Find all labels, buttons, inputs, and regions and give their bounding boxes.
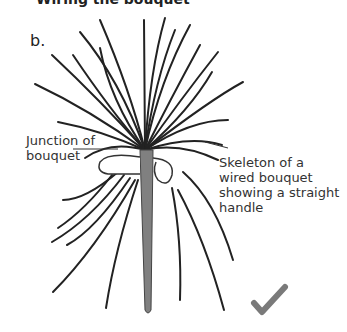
left-hand-grip	[99, 155, 140, 174]
wired-bouquet-diagram: Wiring the bouquet b.	[0, 0, 347, 332]
straight-handle	[140, 150, 153, 313]
right-hand-grip	[153, 158, 172, 183]
junction-label: Junction of bouquet	[26, 133, 95, 163]
check-mark-icon	[254, 287, 285, 312]
skeleton-label: Skeleton of a wired bouquet showing a st…	[219, 155, 339, 215]
